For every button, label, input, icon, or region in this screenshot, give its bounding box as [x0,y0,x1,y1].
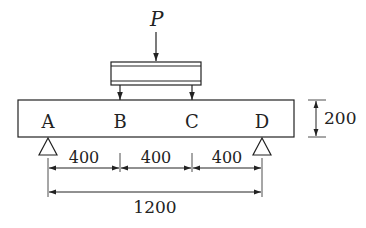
spreader-beam [111,62,201,85]
beam-diagram: P A B C D 200 400 400 400 [0,0,366,228]
point-label-b: B [113,111,126,132]
span-label-ab: 400 [69,148,100,167]
diagram-svg: P A B C D 200 400 400 400 [0,0,366,228]
load-label: P [149,7,164,31]
main-beam [18,100,294,137]
height-label: 200 [324,108,356,128]
support-d-icon [253,138,271,155]
support-a-icon [39,138,57,155]
point-label-d: D [255,111,269,132]
span-label-bc: 400 [141,148,172,167]
span-label-cd: 400 [212,148,243,167]
point-label-a: A [41,111,56,132]
point-label-c: C [185,111,199,132]
total-label: 1200 [133,197,176,217]
